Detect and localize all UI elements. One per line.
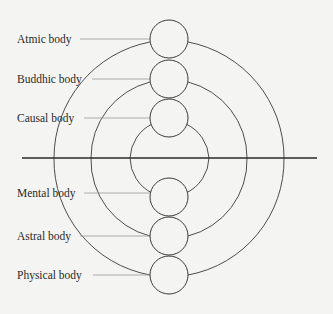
circle-causal-body	[150, 99, 188, 137]
middle-arc-right	[188, 82, 247, 236]
circle-atmic-body	[150, 20, 188, 58]
subtle-bodies-diagram	[0, 0, 333, 314]
circle-physical-body	[150, 256, 188, 294]
circle-astral-body	[150, 217, 188, 255]
label-atmic-body: Atmic body	[17, 33, 72, 45]
label-causal-body: Causal body	[17, 112, 74, 124]
label-astral-body: Astral body	[17, 230, 71, 242]
circle-buddhic-body	[150, 60, 188, 98]
middle-arc	[91, 82, 150, 236]
label-physical-body: Physical body	[17, 269, 82, 281]
label-mental-body: Mental body	[17, 187, 75, 199]
label-buddhic-body: Buddhic body	[17, 73, 82, 85]
circle-mental-body	[150, 178, 188, 216]
